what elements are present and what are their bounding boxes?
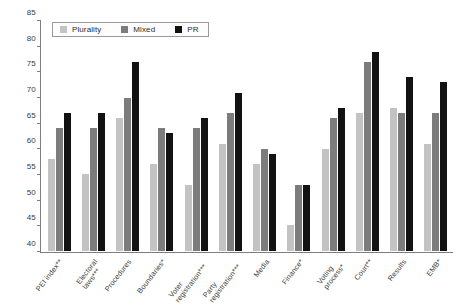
x-label-cell: Voting process*: [316, 256, 350, 307]
bar-group: [248, 21, 282, 251]
bar-plurality: [116, 118, 123, 251]
bar-plurality: [322, 149, 329, 251]
bar-mixed: [295, 185, 302, 251]
x-label-cell: EMB*: [420, 256, 454, 307]
bar-mixed: [261, 149, 268, 251]
bar-plurality: [82, 174, 89, 251]
bar-pr: [201, 118, 208, 251]
bar-mixed: [364, 62, 371, 251]
x-tick-label: Finance*: [281, 258, 306, 287]
y-tick-mark: [37, 71, 41, 72]
y-tick-label: 60: [27, 136, 41, 145]
bar-plurality: [185, 185, 192, 251]
bar-pr: [132, 62, 139, 251]
bar-group: [42, 21, 76, 251]
x-label-cell: Party registration***: [213, 256, 247, 307]
bar-mixed: [124, 98, 131, 251]
x-tick-label: Results: [387, 258, 409, 283]
x-tick-label: Media: [252, 258, 271, 279]
bar-group: [213, 21, 247, 251]
x-label-cell: Court**: [351, 256, 385, 307]
bar-plurality: [253, 164, 260, 251]
bar-mixed: [90, 128, 97, 251]
x-tick-label: Court**: [353, 258, 375, 282]
pr-swatch: [175, 26, 182, 33]
bar-pr: [440, 82, 447, 251]
bar-mixed: [330, 118, 337, 251]
mixed-swatch: [121, 26, 128, 33]
x-label-cell: PEI index**: [41, 256, 75, 307]
bar-group: [111, 21, 145, 251]
x-label-cell: Media: [248, 256, 282, 307]
legend-item-plurality[interactable]: Plurality: [60, 25, 101, 34]
x-tick-label: Voting process*: [316, 258, 347, 291]
y-tick-mark: [37, 251, 41, 252]
bar-mixed: [432, 113, 439, 251]
bar-mixed: [227, 113, 234, 251]
bar-plurality: [48, 159, 55, 251]
x-tick-label: EMB*: [425, 258, 443, 278]
y-tick-label: 85: [27, 8, 41, 17]
x-label-cell: Electoral laws***: [75, 256, 109, 307]
bar-pr: [338, 108, 345, 251]
bar-mixed: [193, 128, 200, 251]
y-tick-mark: [37, 200, 41, 201]
bar-mixed: [56, 128, 63, 251]
bar-chart: 40455055606570758085 PEI index**Electora…: [0, 0, 459, 307]
bar-groups: [42, 21, 453, 251]
legend-item-mixed[interactable]: Mixed: [121, 25, 155, 34]
legend-label: Plurality: [72, 25, 101, 34]
bar-group: [385, 21, 419, 251]
bar-plurality: [390, 108, 397, 251]
y-tick-label: 65: [27, 110, 41, 119]
bar-group: [419, 21, 453, 251]
y-tick-label: 80: [27, 33, 41, 42]
plot-area: 40455055606570758085: [40, 21, 453, 253]
bar-pr: [303, 185, 310, 251]
legend-label: Mixed: [133, 25, 155, 34]
chart-legend: PluralityMixedPR: [52, 22, 209, 37]
y-tick-label: 45: [27, 213, 41, 222]
bar-plurality: [287, 225, 294, 251]
bar-plurality: [424, 144, 431, 251]
bar-pr: [98, 113, 105, 251]
bar-mixed: [398, 113, 405, 251]
bar-plurality: [150, 164, 157, 251]
y-tick-mark: [37, 148, 41, 149]
bar-group: [179, 21, 213, 251]
y-tick-label: 40: [27, 239, 41, 248]
legend-item-pr[interactable]: PR: [175, 25, 198, 34]
bar-group: [145, 21, 179, 251]
bar-group: [350, 21, 384, 251]
bar-plurality: [356, 113, 363, 251]
y-tick-mark: [37, 46, 41, 47]
bar-plurality: [219, 144, 226, 251]
y-tick-mark: [37, 97, 41, 98]
bar-group: [282, 21, 316, 251]
x-label-cell: Finance*: [282, 256, 316, 307]
bar-pr: [372, 52, 379, 251]
legend-label: PR: [187, 25, 198, 34]
x-label-cell: Procedures: [110, 256, 144, 307]
y-tick-label: 70: [27, 85, 41, 94]
bar-pr: [269, 154, 276, 251]
bar-pr: [64, 113, 71, 251]
y-tick-mark: [37, 20, 41, 21]
y-tick-label: 50: [27, 187, 41, 196]
bar-group: [76, 21, 110, 251]
bar-pr: [235, 93, 242, 251]
y-tick-mark: [37, 225, 41, 226]
x-label-cell: Results: [385, 256, 419, 307]
y-tick-mark: [37, 174, 41, 175]
bar-mixed: [158, 128, 165, 251]
x-axis-labels: PEI index**Electoral laws***ProceduresBo…: [41, 256, 454, 307]
x-tick-label: PEI index**: [35, 258, 65, 293]
x-tick-label: Electoral laws***: [75, 258, 106, 291]
y-tick-label: 55: [27, 162, 41, 171]
y-tick-label: 75: [27, 59, 41, 68]
plurality-swatch: [60, 26, 67, 33]
y-tick-mark: [37, 123, 41, 124]
bar-group: [316, 21, 350, 251]
bar-pr: [406, 77, 413, 251]
bar-pr: [166, 133, 173, 251]
